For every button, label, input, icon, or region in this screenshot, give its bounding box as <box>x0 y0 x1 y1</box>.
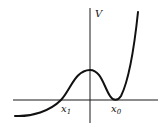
y-axis-label: V <box>95 8 104 19</box>
x1-label: x1 <box>61 103 71 116</box>
x0-label-sub: 0 <box>117 108 122 116</box>
x0-label: x0 <box>111 103 122 116</box>
x1-label-sub: 1 <box>67 108 71 116</box>
potential-energy-diagram: V x1 x0 <box>0 0 168 131</box>
